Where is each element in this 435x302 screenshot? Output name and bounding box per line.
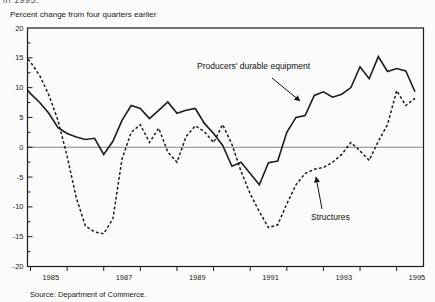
y-tick-label: 10 [15,83,23,92]
y-tick-label: -5 [17,173,24,182]
x-tick-label: 1991 [262,273,279,282]
y-tick-label: -15 [13,232,24,241]
equipment-arrow [272,78,300,101]
y-tick-label: 5 [19,113,23,122]
x-tick-label: 1987 [116,273,133,282]
structures-series-label: Structures [311,212,350,222]
y-tick-label: -10 [13,202,24,211]
y-tick-label: -20 [13,262,24,271]
source-note: Source: Department of Commerce. [30,290,146,299]
structures-line [21,52,415,234]
x-tick-label: 1993 [335,273,352,282]
y-tick-label: 20 [15,24,23,33]
y-tick-label: 15 [15,53,23,62]
x-tick-label: 1985 [42,273,59,282]
structures-arrow [316,177,322,209]
investment-line-chart: 20151050-5-10-15-20198519871989199119931… [0,0,435,302]
equipment-line [21,57,415,185]
equipment-series-label: Producers' durable equipment [197,61,310,71]
x-tick-label: 1995 [409,273,426,282]
x-tick-label: 1989 [189,273,206,282]
y-tick-label: 0 [19,143,23,152]
